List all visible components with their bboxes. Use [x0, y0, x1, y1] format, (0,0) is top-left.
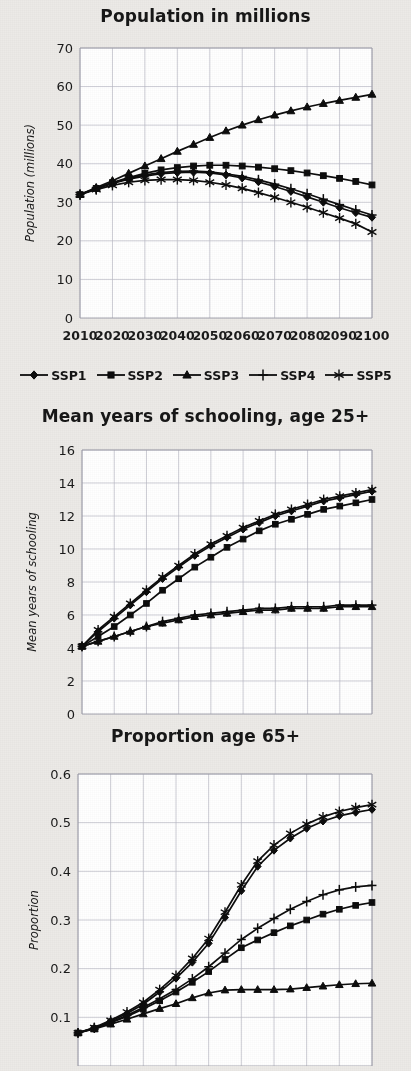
legend-item-ssp4[interactable]: SSP4	[248, 367, 315, 383]
marker-square-ssp2	[160, 587, 166, 593]
legend-item-ssp2[interactable]: SSP2	[96, 367, 163, 383]
marker-square-ssp2	[337, 175, 343, 181]
y-tick-label: 10	[58, 542, 75, 557]
marker-square-ssp2	[128, 612, 134, 618]
x-tick-label: 2040	[160, 328, 195, 343]
chart-svg-proportion: 0.10.20.30.40.50.6Proportion	[0, 746, 411, 1066]
marker-square-ssp2	[256, 528, 262, 534]
marker-square-ssp2	[239, 945, 245, 951]
legend-label: SSP5	[356, 368, 391, 383]
marker-square-ssp2	[144, 601, 150, 607]
y-tick-label: 0	[65, 311, 73, 326]
marker-square-ssp2	[273, 521, 279, 527]
legend-marker-square-icon	[96, 367, 126, 383]
x-tick-label: 2080	[290, 328, 325, 343]
y-tick-label: 14	[58, 476, 75, 491]
marker-square-ssp2	[289, 516, 295, 522]
marker-square-ssp2	[353, 179, 359, 185]
chart-panel-schooling: Mean years of schooling, age 25+ 0246810…	[0, 400, 411, 720]
x-tick-label: 2020	[95, 328, 130, 343]
y-tick-label: 0.3	[50, 913, 71, 928]
marker-square-ssp2	[176, 576, 182, 582]
marker-square-ssp2	[271, 930, 277, 936]
legend-item-ssp3[interactable]: SSP3	[172, 367, 239, 383]
marker-square-ssp2	[288, 168, 294, 174]
y-axis-ticks: 0.10.20.30.40.50.6	[50, 767, 71, 1025]
legend-label: SSP1	[51, 368, 86, 383]
chart-title-population: Population in millions	[0, 0, 411, 26]
chart-panel-proportion: Proportion age 65+ 0.10.20.30.40.50.6Pro…	[0, 720, 411, 1071]
legend-label: SSP3	[204, 368, 239, 383]
marker-square-ssp2	[353, 903, 359, 909]
marker-square-ssp2	[208, 554, 214, 560]
y-tick-label: 8	[67, 575, 75, 590]
marker-square-ssp2	[240, 536, 246, 542]
legend-item-ssp1[interactable]: SSP1	[19, 367, 86, 383]
y-axis-ticks: 0246810121416	[58, 443, 75, 722]
marker-square-ssp2	[111, 624, 117, 630]
y-tick-label: 0.6	[50, 767, 71, 782]
y-tick-label: 0.2	[50, 961, 71, 976]
y-tick-label: 0.5	[50, 815, 71, 830]
legend-marker-triangle-icon	[172, 367, 202, 383]
y-tick-label: 60	[56, 79, 73, 94]
chart-svg-schooling: 0246810121416Mean years of schooling2010…	[0, 426, 411, 721]
x-tick-label: 2050	[192, 328, 227, 343]
x-tick-label: 2030	[127, 328, 162, 343]
y-axis-label: Population (millions)	[23, 124, 37, 242]
marker-square-ssp2	[304, 170, 310, 176]
marker-square-ssp2	[337, 906, 343, 912]
marker-square-ssp2	[369, 900, 375, 906]
marker-square-ssp2	[337, 503, 343, 509]
legend-item-ssp5[interactable]: SSP5	[324, 367, 391, 383]
y-axis-label: Mean years of schooling	[25, 512, 39, 652]
y-axis-ticks: 010203040506070	[56, 41, 73, 326]
marker-square-ssp2	[255, 937, 261, 943]
marker-square-ssp2	[320, 911, 326, 917]
marker-square-ssp2	[239, 163, 245, 169]
chart-title-proportion: Proportion age 65+	[0, 720, 411, 746]
y-tick-label: 70	[56, 41, 73, 56]
x-tick-label: 2060	[225, 328, 260, 343]
chart-svg-population: 010203040506070Population (millions)2010…	[0, 26, 411, 348]
marker-square-ssp2	[369, 182, 375, 188]
marker-square-ssp2	[305, 512, 311, 518]
marker-square-ssp2	[256, 164, 262, 170]
y-tick-label: 20	[56, 233, 73, 248]
legend-marker-plus-icon	[248, 367, 278, 383]
y-tick-label: 0.4	[50, 864, 71, 879]
x-tick-label: 2090	[322, 328, 357, 343]
legend-marker-diamond-icon	[19, 367, 49, 383]
legend-label: SSP4	[280, 368, 315, 383]
marker-square-ssp2	[304, 917, 310, 923]
x-tick-label: 2100	[355, 328, 390, 343]
y-tick-label: 0.1	[50, 1010, 71, 1025]
legend-marker-square-icon	[107, 372, 113, 378]
y-tick-label: 6	[67, 608, 75, 623]
marker-square-ssp2	[369, 497, 375, 503]
x-tick-label: 2010	[63, 328, 98, 343]
y-tick-label: 10	[56, 272, 73, 287]
y-tick-label: 12	[58, 509, 75, 524]
legend-marker-asterisk-icon	[324, 367, 354, 383]
ssp-scenario-legend: SSP1SSP2SSP3SSP4SSP5	[0, 350, 411, 400]
marker-square-ssp2	[320, 173, 326, 179]
marker-square-ssp2	[223, 162, 229, 168]
chart-panel-population: Population in millions 010203040506070Po…	[0, 0, 411, 350]
marker-square-ssp2	[288, 923, 294, 929]
x-axis-ticks: 2010202020302040205020602070208020902100	[63, 328, 390, 343]
marker-square-ssp2	[272, 166, 278, 172]
y-tick-label: 0	[67, 707, 75, 722]
ssp-projection-figure: Population in millions 010203040506070Po…	[0, 0, 411, 1071]
legend-marker-plus-icon	[258, 370, 268, 381]
legend-marker-diamond-icon	[30, 371, 38, 379]
y-tick-label: 16	[58, 443, 75, 458]
y-axis-label: Proportion	[27, 890, 41, 950]
y-tick-label: 40	[56, 156, 73, 171]
y-tick-label: 4	[67, 641, 75, 656]
marker-square-ssp2	[321, 507, 327, 513]
legend-label: SSP2	[128, 368, 163, 383]
chart-legend-panel: SSP1SSP2SSP3SSP4SSP5	[0, 350, 411, 400]
marker-square-ssp2	[192, 564, 198, 570]
x-tick-label: 2070	[257, 328, 292, 343]
